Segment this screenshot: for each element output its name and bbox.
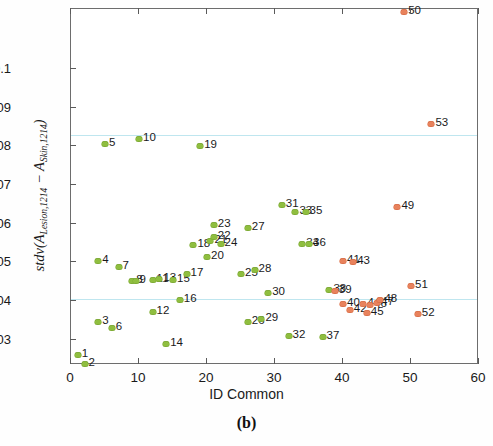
data-point-51[interactable] (408, 283, 415, 289)
x-tick-mark (138, 8, 139, 14)
data-point-label-28: 28 (259, 263, 272, 275)
x-tick-mark (274, 358, 275, 364)
data-point-52[interactable] (414, 311, 421, 317)
y-axis-label-close: ) (31, 119, 47, 124)
data-point-14[interactable] (163, 341, 170, 347)
x-tick-mark (138, 358, 139, 364)
data-point-13[interactable] (156, 276, 163, 282)
data-point-label-30: 30 (272, 286, 285, 298)
data-point-48[interactable] (377, 297, 384, 303)
y-tick-label: 0.08 (0, 138, 11, 153)
data-point-45[interactable] (363, 310, 370, 316)
data-point-30[interactable] (265, 290, 272, 296)
y-axis-label-fn: stdv( (31, 243, 47, 271)
data-point-50[interactable] (401, 9, 408, 15)
y-axis-label-a2: A (31, 162, 47, 171)
x-tick-mark (478, 358, 479, 364)
data-point-label-39: 39 (339, 284, 352, 296)
data-point-28[interactable] (251, 267, 258, 273)
x-tick-label: 30 (266, 370, 281, 385)
data-point-label-9: 9 (140, 274, 146, 286)
y-tick-label: 0.1 (0, 60, 11, 75)
data-point-42[interactable] (346, 307, 353, 313)
x-tick-mark (70, 358, 71, 364)
data-point-label-16: 16 (184, 293, 197, 305)
y-tick-mark (70, 261, 76, 262)
data-point-39[interactable] (331, 288, 338, 294)
x-tick-label: 40 (334, 370, 349, 385)
y-tick-label: 0.07 (0, 177, 11, 192)
data-point-33[interactable] (292, 209, 299, 215)
data-point-17[interactable] (183, 271, 190, 277)
data-point-label-3: 3 (102, 315, 108, 327)
y-tick-label: 0.04 (0, 293, 11, 308)
data-point-36[interactable] (306, 241, 313, 247)
y-tick-mark (70, 339, 76, 340)
data-point-23[interactable] (210, 222, 217, 228)
x-tick-mark (478, 8, 479, 14)
data-point-26[interactable] (244, 319, 251, 325)
data-point-label-31: 31 (286, 198, 299, 210)
data-point-3[interactable] (95, 319, 102, 325)
data-point-41[interactable] (340, 258, 347, 264)
data-point-20[interactable] (204, 254, 211, 260)
data-point-16[interactable] (176, 297, 183, 303)
reference-line-upper-threshold (71, 135, 477, 136)
data-point-label-1: 1 (82, 348, 88, 360)
data-point-49[interactable] (394, 204, 401, 210)
data-point-12[interactable] (149, 309, 156, 315)
data-point-label-53: 53 (435, 117, 448, 129)
data-point-7[interactable] (115, 264, 122, 270)
data-point-19[interactable] (197, 143, 204, 149)
data-point-label-51: 51 (415, 279, 428, 291)
data-point-43[interactable] (350, 259, 357, 265)
data-point-18[interactable] (190, 242, 197, 248)
data-point-2[interactable] (81, 361, 88, 367)
x-axis-label: ID Common (0, 386, 493, 402)
data-point-1[interactable] (74, 352, 81, 358)
x-tick-mark (410, 358, 411, 364)
x-tick-label: 60 (470, 370, 485, 385)
data-point-label-6: 6 (116, 321, 122, 333)
data-point-15[interactable] (170, 277, 177, 283)
data-point-label-27: 27 (252, 221, 265, 233)
data-point-6[interactable] (108, 325, 115, 331)
data-point-label-52: 52 (422, 307, 435, 319)
data-point-label-23: 23 (218, 218, 231, 230)
data-point-32[interactable] (285, 333, 292, 339)
y-tick-mark (70, 223, 76, 224)
data-point-9[interactable] (132, 278, 139, 284)
x-tick-label: 10 (130, 370, 145, 385)
figure-panel-b: 1234567891011121314151617181920212223242… (0, 0, 493, 446)
data-point-35[interactable] (302, 209, 309, 215)
x-tick-mark (274, 8, 275, 14)
data-point-24[interactable] (217, 241, 224, 247)
data-point-label-29: 29 (265, 312, 278, 324)
data-point-22[interactable] (210, 234, 217, 240)
data-point-label-24: 24 (225, 237, 238, 249)
y-tick-mark (70, 300, 76, 301)
data-point-27[interactable] (244, 225, 251, 231)
data-point-label-17: 17 (191, 267, 204, 279)
data-point-label-20: 20 (211, 250, 224, 262)
data-point-label-5: 5 (109, 137, 115, 149)
data-point-40[interactable] (340, 301, 347, 307)
data-point-label-49: 49 (401, 200, 414, 212)
data-point-5[interactable] (102, 141, 109, 147)
data-point-25[interactable] (238, 271, 245, 277)
data-point-label-12: 12 (157, 305, 170, 317)
y-tick-label: 0.06 (0, 215, 11, 230)
data-point-10[interactable] (136, 136, 143, 142)
data-point-4[interactable] (95, 258, 102, 264)
data-point-label-35: 35 (310, 205, 323, 217)
data-point-53[interactable] (428, 121, 435, 127)
data-point-31[interactable] (278, 202, 285, 208)
x-tick-mark (206, 358, 207, 364)
y-axis-label-a1: A (31, 234, 47, 243)
y-axis-label-a1-sub: Lesion,1214 (39, 188, 49, 235)
data-point-label-19: 19 (204, 139, 217, 151)
data-point-29[interactable] (258, 316, 265, 322)
data-point-37[interactable] (319, 334, 326, 340)
x-tick-mark (70, 8, 71, 14)
y-axis-label-minus: − (31, 171, 47, 188)
